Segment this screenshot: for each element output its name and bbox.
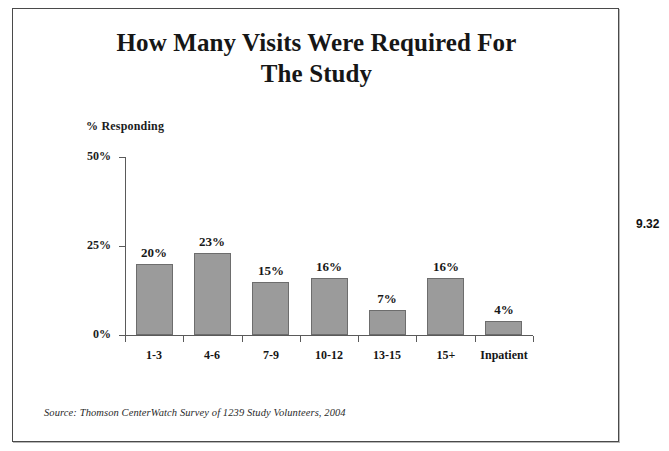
- page-marginal-number: 9.32: [636, 217, 659, 231]
- y-axis-label: % Responding: [86, 119, 164, 134]
- x-axis-category-label: 1-3: [114, 348, 194, 363]
- bar-value-label: 20%: [124, 245, 184, 261]
- y-axis-tick: [119, 335, 126, 336]
- bar: [311, 278, 348, 335]
- bar-value-label: 7%: [357, 291, 417, 307]
- x-axis-tick: [416, 336, 417, 342]
- bar-value-label: 15%: [241, 263, 301, 279]
- x-axis-tick: [358, 336, 359, 342]
- chart-title-line-1: How Many Visits Were Required For: [117, 29, 517, 56]
- x-axis-tick: [300, 336, 301, 342]
- chart-title: How Many Visits Were Required For The St…: [43, 27, 590, 89]
- y-axis-tick: [119, 246, 126, 247]
- y-axis-tick-label: 25%: [51, 238, 111, 253]
- y-axis-tick-label: 0%: [51, 327, 111, 342]
- bar-value-label: 16%: [299, 259, 359, 275]
- bar-value-label: 16%: [416, 259, 476, 275]
- bar: [485, 321, 522, 335]
- x-axis-category-label: 7-9: [231, 348, 311, 363]
- bar: [427, 278, 464, 335]
- x-axis-category-label: 10-12: [289, 348, 369, 363]
- x-axis-category-label: 4-6: [172, 348, 252, 363]
- bar: [194, 253, 231, 335]
- x-axis-category-label: Inpatient: [464, 348, 544, 363]
- x-axis-tick: [242, 336, 243, 342]
- x-axis-tick: [125, 336, 126, 342]
- slide-frame: How Many Visits Were Required For The St…: [12, 8, 619, 442]
- x-axis-tick: [475, 336, 476, 342]
- chart-title-line-2: The Study: [43, 58, 590, 89]
- bar: [252, 282, 289, 335]
- bar: [136, 264, 173, 335]
- bar-value-label: 4%: [474, 302, 534, 318]
- x-axis-tick: [183, 336, 184, 342]
- y-axis-line: [125, 157, 126, 336]
- x-axis-category-label: 13-15: [347, 348, 427, 363]
- x-axis-category-label: 15+: [406, 348, 486, 363]
- x-axis-line: [125, 335, 533, 336]
- bar: [369, 310, 406, 335]
- source-note: Source: Thomson CenterWatch Survey of 12…: [44, 407, 346, 418]
- y-axis-tick: [119, 157, 126, 158]
- bar-value-label: 23%: [182, 234, 242, 250]
- y-axis-tick-label: 50%: [51, 149, 111, 164]
- x-axis-tick: [533, 336, 534, 342]
